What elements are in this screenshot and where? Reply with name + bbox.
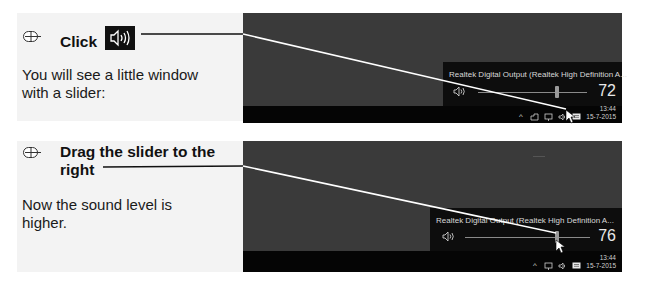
speaker-icon[interactable] — [453, 86, 466, 97]
chevron-up-icon[interactable]: ^ — [516, 113, 525, 121]
volume-slider-thumb[interactable] — [555, 86, 559, 98]
speaker-icon[interactable] — [558, 262, 567, 270]
clock[interactable]: 13:44 15-7-2015 — [586, 105, 616, 121]
clock[interactable]: 13:44 15-7-2015 — [586, 254, 616, 270]
volume-value: 72 — [598, 82, 616, 100]
speaker-icon[interactable] — [442, 231, 455, 242]
volume-slider-thumb[interactable] — [555, 231, 559, 243]
speaker-icon — [105, 26, 135, 50]
audio-device-name[interactable]: Realtek Digital Output (Realtek High Def… — [449, 70, 627, 79]
step1-description-line2: with a slider: — [22, 84, 105, 102]
step2-description-line1: Now the sound level is — [22, 196, 172, 214]
clock-date: 15-7-2015 — [586, 113, 616, 121]
monitor-icon[interactable] — [544, 262, 553, 270]
volume-popup: Realtek Digital Output (Realtek High Def… — [430, 208, 622, 251]
step1-instruction: Click — [60, 26, 135, 51]
taskbar: ^ 13:44 15-7-2015 — [243, 106, 622, 123]
step1-panel: Click You will see a little window with … — [17, 13, 243, 121]
taskbar: ^ 13:44 15-7-2015 — [243, 251, 622, 272]
mouse-icon — [23, 31, 42, 42]
monitor-icon[interactable] — [544, 113, 553, 121]
volume-popup: Realtek Digital Output (Realtek High Def… — [443, 62, 622, 106]
volume-slider-track[interactable] — [478, 92, 587, 93]
mouse-icon — [23, 147, 42, 158]
step2-description-line2: higher. — [22, 214, 67, 232]
step1-description-line1: You will see a little window — [22, 66, 198, 84]
chevron-up-icon[interactable]: ^ — [530, 262, 539, 270]
action-center-icon[interactable] — [572, 262, 581, 270]
step2-instruction-line1: Drag the slider to the — [60, 143, 215, 161]
system-tray: ^ 13:44 15-7-2015 — [530, 254, 616, 270]
action-center-icon[interactable] — [572, 113, 581, 121]
step1-screenshot: ^ 13:44 15-7-2015 Realtek Digital Output… — [243, 13, 622, 123]
clock-time: 13:44 — [586, 254, 616, 262]
clock-date: 15-7-2015 — [586, 262, 616, 270]
volume-slider-track[interactable] — [465, 237, 590, 238]
network-icon[interactable] — [530, 113, 539, 121]
speaker-icon[interactable] — [558, 113, 567, 121]
clock-time: 13:44 — [586, 105, 616, 113]
instruction-text: Click — [60, 33, 97, 50]
step2-screenshot: ^ 13:44 15-7-2015 Realtek Digital Output… — [243, 141, 622, 272]
step2-panel: Drag the slider to the right Now the sou… — [17, 141, 243, 272]
audio-device-name[interactable]: Realtek Digital Output (Realtek High Def… — [436, 216, 614, 225]
desktop-mark — [533, 156, 545, 157]
system-tray: ^ 13:44 15-7-2015 — [516, 105, 616, 121]
volume-value: 76 — [598, 227, 616, 245]
step2-instruction-line2: right — [60, 161, 94, 179]
